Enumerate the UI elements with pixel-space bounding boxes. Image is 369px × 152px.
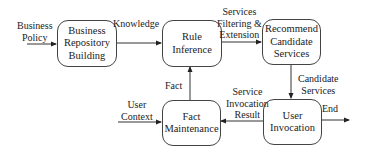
edge-label-line: Fact xyxy=(165,80,182,92)
edge-label-line: Invocation xyxy=(226,98,269,110)
edge-label-end: End xyxy=(322,103,338,115)
node-label-line: Rule xyxy=(172,31,212,44)
edge-label-line: Extension xyxy=(217,29,262,41)
edge-label-line: Services xyxy=(298,85,339,97)
edge-label-line: Business xyxy=(17,20,53,32)
node-rule-inference: Rule Inference xyxy=(162,20,222,67)
edge-label-line: Context xyxy=(121,111,153,123)
node-label-line: Fact xyxy=(164,111,218,124)
node-label-line: Business xyxy=(64,25,110,38)
node-label-line: Maintenance xyxy=(164,123,218,136)
node-business-repository-building: Business Repository Building xyxy=(57,20,117,67)
node-label-line: Candidate xyxy=(265,36,318,49)
node-user-invocation: User Invocation xyxy=(263,99,322,145)
edge-label-fact: Fact xyxy=(165,80,182,92)
edge-label-line: User xyxy=(121,99,153,111)
edge-label-line: Knowledge xyxy=(113,18,159,30)
edge-label-service-invocation-result: Service Invocation Result xyxy=(226,86,269,121)
edge-label-knowledge: Knowledge xyxy=(113,18,159,30)
node-label-line: Building xyxy=(64,50,110,63)
edge-label-line: Candidate xyxy=(298,73,339,85)
node-label-line: Services xyxy=(265,48,318,61)
node-label-line: Repository xyxy=(64,37,110,50)
edge-label-line: End xyxy=(322,103,338,115)
edge-label-line: Services xyxy=(217,6,262,18)
node-recommend-candidate-services: Recommend Candidate Services xyxy=(262,19,321,65)
edge-label-services-filtering-extension: Services Filtering & Extension xyxy=(217,6,262,41)
edge-label-candidate-services: Candidate Services xyxy=(298,73,339,96)
edge-label-user-context: User Context xyxy=(121,99,153,122)
edge-label-line: Policy xyxy=(17,32,53,44)
edge-label-line: Result xyxy=(226,109,269,121)
edge-label-business-policy: Business Policy xyxy=(17,20,53,43)
edge-label-line: Filtering & xyxy=(217,18,262,30)
node-label-line: Recommend xyxy=(265,23,318,36)
node-fact-maintenance: Fact Maintenance xyxy=(162,100,221,146)
node-label-line: Invocation xyxy=(270,122,315,135)
node-label-line: User xyxy=(270,110,315,123)
node-label-line: Inference xyxy=(172,44,212,57)
edge-label-line: Service xyxy=(226,86,269,98)
